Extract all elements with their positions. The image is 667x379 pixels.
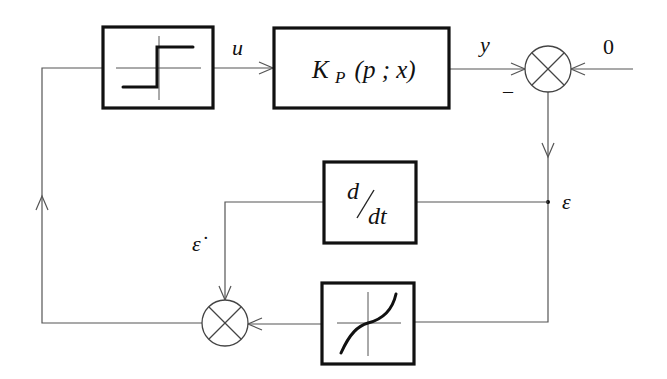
wire-error-dot [225, 202, 324, 300]
signal-error-dot-label: ε̇ [192, 231, 208, 256]
reference-zero-label: 0 [603, 34, 614, 59]
signal-u-label: u [232, 35, 243, 60]
top-summing-junction [525, 46, 571, 92]
bottom-summing-junction [202, 300, 248, 346]
derivative-numerator: d [347, 178, 360, 204]
nonlinearity-block [322, 283, 414, 364]
plant-label-sub: P [334, 68, 345, 87]
plant-label-main: K [311, 56, 330, 83]
block-diagram: K P (p ; x) d dt u y 0 – ε ε̇ [0, 0, 667, 379]
plant-label-args: (p ; x) [355, 56, 416, 84]
minus-sign-label: – [502, 80, 514, 102]
derivative-block: d dt [324, 162, 416, 243]
plant-block: K P (p ; x) [274, 28, 449, 108]
signal-error-label: ε [562, 189, 571, 214]
derivative-denominator: dt [368, 203, 388, 229]
signal-y-label: y [478, 32, 490, 57]
relay-block [103, 27, 213, 108]
wire-error [414, 92, 548, 322]
